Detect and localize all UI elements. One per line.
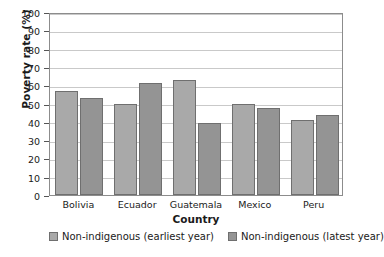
y-axis-tick-label: 0 [0, 191, 40, 202]
bar [316, 115, 339, 195]
bar [80, 98, 103, 195]
y-axis-tick-label: 40 [0, 117, 40, 128]
y-axis-tick-label: 10 [0, 172, 40, 183]
y-axis-tick [44, 196, 49, 197]
x-axis-tick-label: Bolivia [63, 199, 95, 210]
plot-area [49, 13, 343, 196]
bar [139, 83, 162, 195]
bar [55, 91, 78, 195]
bar-group [291, 14, 339, 195]
legend-label: Non-indigenous (earliest year) [62, 231, 214, 242]
bar-group [55, 14, 103, 195]
x-axis-tick-label: Guatemala [170, 199, 222, 210]
bar [114, 104, 137, 196]
x-axis-tick-label: Ecuador [118, 199, 157, 210]
y-axis-tick-label: 60 [0, 81, 40, 92]
legend-swatch-icon [228, 232, 237, 241]
legend-label: Non-indigenous (latest year) [241, 231, 384, 242]
legend-item: Non-indigenous (latest year) [228, 231, 384, 242]
y-axis-tick-label: 100 [0, 8, 40, 19]
y-axis-tick-label: 20 [0, 154, 40, 165]
gridline [50, 197, 342, 198]
bar [257, 108, 280, 195]
bar [198, 123, 221, 195]
bar-group [173, 14, 221, 195]
bar [232, 104, 255, 196]
x-axis-tick-label: Peru [303, 199, 324, 210]
x-axis-tick-label: Mexico [238, 199, 271, 210]
bars-layer [50, 14, 342, 195]
y-axis-tick-label: 80 [0, 44, 40, 55]
y-axis-tick-label: 30 [0, 136, 40, 147]
y-axis-tick-label: 90 [0, 26, 40, 37]
bar-group [114, 14, 162, 195]
bar [291, 120, 314, 195]
bar [173, 80, 196, 195]
y-axis-tick-label: 70 [0, 62, 40, 73]
bar-group [232, 14, 280, 195]
legend-swatch-icon [49, 232, 58, 241]
legend-item: Non-indigenous (earliest year) [49, 231, 214, 242]
x-axis-title: Country [49, 213, 343, 225]
y-axis-tick-label: 50 [0, 99, 40, 110]
chart-legend: Non-indigenous (earliest year)Non-indige… [49, 231, 349, 242]
